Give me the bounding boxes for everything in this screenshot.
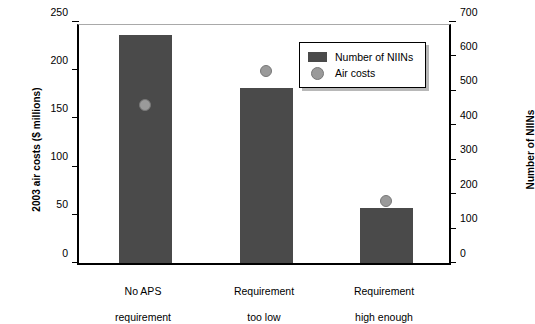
category-label-1-line2: too low bbox=[247, 311, 280, 323]
left-tick-label-150: 150 bbox=[50, 103, 68, 114]
legend-circle-swatch-icon bbox=[311, 67, 324, 80]
right-tick-label-500: 500 bbox=[460, 75, 478, 86]
left-tick-200 bbox=[72, 69, 79, 70]
left-axis-title: 2003 air costs ($ millions) bbox=[31, 50, 42, 250]
dot-air-costs-requirement-high-enough bbox=[380, 195, 392, 207]
left-tick-100 bbox=[72, 166, 79, 167]
bar-requirement-high-enough bbox=[360, 208, 413, 263]
left-tick-label-50: 50 bbox=[56, 199, 68, 210]
legend-item-number-of-niins-label: Number of NIINs bbox=[335, 51, 413, 63]
left-tick-50 bbox=[72, 214, 79, 215]
legend-bar-swatch-icon bbox=[308, 52, 327, 62]
right-tick-600 bbox=[449, 55, 456, 56]
right-tick-label-200: 200 bbox=[460, 178, 478, 189]
dot-air-costs-requirement-too-low bbox=[260, 65, 272, 77]
right-tick-700 bbox=[449, 21, 456, 22]
right-tick-200 bbox=[449, 193, 456, 194]
right-tick-label-600: 600 bbox=[460, 41, 478, 52]
right-tick-label-100: 100 bbox=[460, 213, 478, 224]
legend-item-air-costs: Air costs bbox=[308, 65, 413, 81]
category-label-2: Requirement high enough bbox=[354, 272, 414, 324]
left-tick-label-200: 200 bbox=[50, 54, 68, 65]
chart-legend: Number of NIINs Air costs bbox=[299, 42, 426, 88]
left-tick-label-0: 0 bbox=[62, 247, 68, 258]
right-tick-0 bbox=[449, 262, 456, 263]
right-tick-500 bbox=[449, 90, 456, 91]
right-tick-label-300: 300 bbox=[460, 144, 478, 155]
left-tick-250 bbox=[72, 21, 79, 22]
category-label-1: Requirement too low bbox=[234, 272, 294, 324]
category-label-1-line1: Requirement bbox=[234, 285, 294, 297]
right-tick-300 bbox=[449, 159, 456, 160]
right-tick-label-400: 400 bbox=[460, 110, 478, 121]
category-label-0-line2: requirement bbox=[115, 311, 171, 323]
dot-air-costs-no-aps-requirement bbox=[139, 99, 151, 111]
left-tick-label-100: 100 bbox=[50, 151, 68, 162]
category-label-0: No APS requirement bbox=[115, 272, 171, 324]
left-tick-150 bbox=[72, 117, 79, 118]
bar-no-aps-requirement bbox=[119, 35, 172, 263]
bar-requirement-too-low bbox=[240, 88, 293, 263]
category-label-2-line1: Requirement bbox=[354, 285, 414, 297]
legend-item-air-costs-label: Air costs bbox=[335, 67, 375, 79]
right-axis-title: Number of NIINs bbox=[525, 50, 535, 250]
right-tick-label-0: 0 bbox=[460, 247, 466, 258]
right-tick-label-700: 700 bbox=[460, 6, 478, 17]
category-label-2-line2: high enough bbox=[355, 311, 413, 323]
left-tick-label-250: 250 bbox=[50, 6, 68, 17]
right-tick-400 bbox=[449, 124, 456, 125]
right-tick-100 bbox=[449, 228, 456, 229]
category-label-0-line1: No APS bbox=[125, 285, 162, 297]
left-tick-0 bbox=[72, 262, 79, 263]
legend-item-number-of-niins: Number of NIINs bbox=[308, 49, 413, 65]
